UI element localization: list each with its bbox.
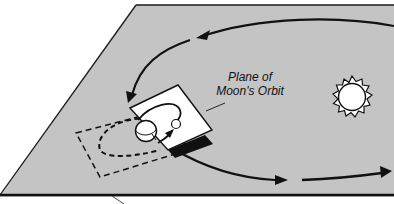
plane-label-line2: Moon's Orbit [216,84,284,98]
earth-icon [136,121,157,142]
moon-icon [172,120,181,129]
plane-label-line1: Plane of [228,70,274,84]
leader-line-bottom [112,196,124,204]
moon-orbit-diagram: Plane of Moon's Orbit [0,0,394,204]
ecliptic-plane [0,5,394,197]
